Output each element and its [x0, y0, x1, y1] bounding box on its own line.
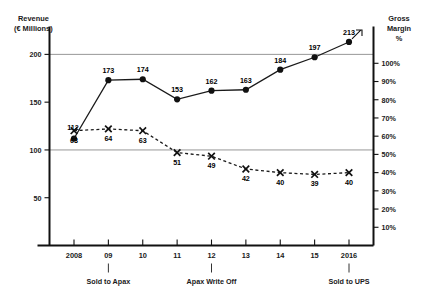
gross-margin-value-label-11: 51 [173, 158, 181, 167]
right-tick-label-20: 20% [382, 205, 397, 214]
right-tick-label-60: 60% [382, 132, 397, 141]
gross-margin-value-label-10: 63 [139, 136, 147, 145]
left-tick-label-200: 200 [30, 50, 42, 59]
x-tick-label-15: 15 [311, 251, 319, 260]
revenue-point-15 [312, 54, 318, 60]
x-tick-label-11: 11 [173, 251, 181, 260]
right-tick-label-80: 80% [382, 96, 397, 105]
gross-margin-value-label-13: 42 [242, 174, 250, 183]
revenue-value-label-12: 162 [206, 77, 218, 86]
revenue-value-label-09: 173 [102, 66, 114, 75]
revenue-gross-margin-chart: Revenue(€ Millions)GrossMargin%501001502… [0, 0, 422, 301]
revenue-value-label-14: 184 [274, 56, 286, 65]
right-axis-title-line1: Gross [388, 14, 409, 23]
revenue-value-label-2016: 213 [343, 28, 355, 37]
revenue-value-label-11: 153 [171, 85, 183, 94]
revenue-point-12 [208, 88, 214, 94]
right-tick-label-70: 70% [382, 114, 397, 123]
x-tick-label-10: 10 [139, 251, 147, 260]
left-tick-label-150: 150 [30, 98, 42, 107]
revenue-point-14 [277, 67, 283, 73]
revenue-point-11 [174, 96, 180, 102]
right-tick-label-50: 50% [382, 150, 397, 159]
gross-margin-value-label-12: 49 [208, 161, 216, 170]
gross-margin-value-label-2008: 63 [70, 136, 78, 145]
x-tick-label-2008: 2008 [66, 251, 82, 260]
gross-margin-value-label-14: 40 [276, 178, 284, 187]
annotation-label-2016: Sold to UPS [328, 277, 369, 286]
revenue-value-label-15: 197 [309, 43, 321, 52]
annotation-label-09: Sold to Apax [87, 277, 131, 286]
right-axis-title-line2: Margin [387, 24, 412, 33]
right-tick-label-30: 30% [382, 187, 397, 196]
right-tick-label-40: 40% [382, 168, 397, 177]
revenue-point-09 [105, 77, 111, 83]
gross-margin-value-label-09: 64 [104, 134, 112, 143]
left-axis-title-line1: Revenue [18, 14, 49, 23]
right-tick-label-90: 90% [382, 77, 397, 86]
left-axis-title-line2: (€ Millions) [14, 24, 53, 33]
right-tick-label-10: 10% [382, 223, 397, 232]
gross-margin-value-label-2016: 40 [345, 178, 353, 187]
x-tick-label-09: 09 [104, 251, 112, 260]
right-axis-title-line3: % [396, 34, 403, 43]
revenue-point-13 [243, 87, 249, 93]
gross-margin-value-label-15: 39 [311, 179, 319, 188]
right-tick-label-100: 100% [382, 59, 401, 68]
gross-margin-point-10 [139, 127, 146, 134]
x-tick-label-14: 14 [276, 251, 285, 260]
x-tick-label-13: 13 [242, 251, 250, 260]
left-tick-label-100: 100 [30, 146, 42, 155]
revenue-point-2016 [346, 39, 352, 45]
revenue-point-10 [140, 76, 146, 82]
x-tick-label-12: 12 [207, 251, 215, 260]
chart-canvas: Revenue(€ Millions)GrossMargin%501001502… [0, 0, 422, 301]
left-tick-label-50: 50 [34, 194, 42, 203]
revenue-value-label-13: 163 [240, 76, 252, 85]
gross-margin-point-09 [105, 126, 112, 133]
gross-margin-point-13 [243, 166, 250, 173]
annotation-label-12: Apax Write Off [187, 277, 237, 286]
x-tick-label-2016: 2016 [341, 251, 357, 260]
revenue-value-label-10: 174 [137, 65, 149, 74]
